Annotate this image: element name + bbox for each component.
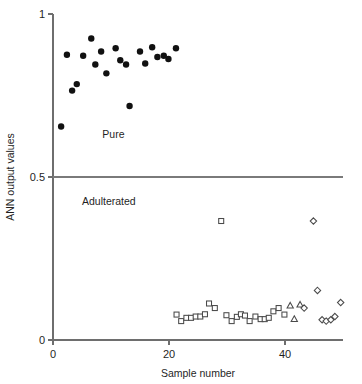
y-tick-label: 0.5	[30, 171, 45, 183]
x-tick-label: 40	[279, 348, 291, 360]
plot-canvas: 00.5102040Sample numberANN output values…	[0, 0, 362, 384]
data-point-filled-circle	[117, 57, 123, 63]
data-point-filled-circle	[103, 70, 109, 76]
data-point-filled-circle	[154, 54, 160, 60]
data-point-filled-circle	[165, 56, 171, 62]
data-point-filled-circle	[123, 61, 129, 67]
data-point-open-triangle	[287, 302, 293, 308]
data-point-open-diamond	[337, 299, 343, 305]
data-point-filled-circle	[149, 44, 155, 50]
data-point-filled-circle	[88, 35, 94, 41]
scatter-plot-figure: 00.5102040Sample numberANN output values…	[0, 0, 362, 384]
data-point-open-square	[247, 319, 252, 324]
data-point-filled-circle	[137, 48, 143, 54]
x-tick-label: 0	[50, 348, 56, 360]
data-point-filled-circle	[92, 61, 98, 67]
data-point-open-square	[224, 313, 229, 318]
data-point-open-square	[174, 312, 179, 317]
data-point-open-square	[271, 309, 276, 314]
data-point-open-square	[179, 319, 184, 324]
data-point-filled-circle	[74, 81, 80, 87]
data-point-filled-circle	[80, 53, 86, 59]
y-tick-label: 0	[39, 334, 45, 346]
x-axis-title: Sample number	[161, 367, 236, 379]
region-label: Pure	[102, 128, 124, 140]
data-point-open-square	[207, 301, 212, 306]
data-point-filled-circle	[98, 48, 104, 54]
data-point-open-diamond	[310, 218, 316, 224]
data-point-filled-circle	[69, 87, 75, 93]
data-point-open-square	[276, 306, 281, 311]
y-tick-label: 1	[39, 8, 45, 20]
data-point-open-diamond	[314, 287, 320, 293]
x-tick-label: 20	[163, 348, 175, 360]
data-point-filled-circle	[142, 60, 148, 66]
data-point-open-square	[282, 312, 287, 317]
region-label: Adulterated	[82, 195, 136, 207]
data-point-open-square	[202, 312, 207, 317]
data-point-filled-circle	[126, 103, 132, 109]
data-point-filled-circle	[58, 123, 64, 129]
data-point-open-square	[229, 319, 234, 324]
data-point-open-square	[212, 306, 217, 311]
data-point-open-square	[253, 314, 258, 319]
data-point-filled-circle	[112, 45, 118, 51]
data-point-filled-circle	[64, 52, 70, 58]
y-axis-title: ANN output values	[4, 133, 16, 221]
data-point-open-square	[242, 313, 247, 318]
data-point-open-triangle	[291, 316, 297, 322]
data-point-filled-circle	[173, 45, 179, 51]
data-point-open-square	[219, 219, 224, 224]
data-point-open-square	[266, 315, 271, 320]
